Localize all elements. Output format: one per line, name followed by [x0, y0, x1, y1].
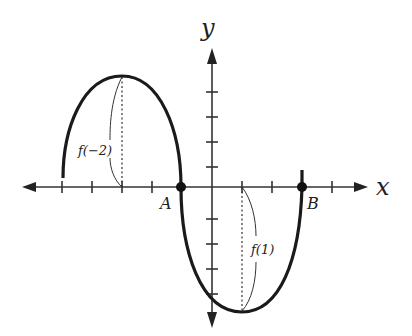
function-curve	[63, 76, 302, 312]
annotation-f-neg2: f(−2)	[77, 77, 122, 187]
x-axis-right-arrow-icon	[354, 182, 368, 192]
function-graph: x y f(−2) f(1) A	[0, 0, 412, 336]
x-axis-label: x	[376, 173, 390, 201]
y-axis: y	[200, 14, 218, 328]
point-a-label: A	[158, 194, 172, 213]
point-b-label: B	[306, 194, 319, 213]
annotation-f-1: f(1)	[242, 187, 274, 311]
y-axis-label: y	[200, 14, 215, 42]
annotation-f-1-label: f(1)	[250, 242, 274, 257]
annotation-f-neg2-label: f(−2)	[77, 143, 112, 158]
y-axis-up-arrow-icon	[207, 48, 217, 64]
y-axis-down-arrow-icon	[207, 312, 217, 328]
x-axis: x	[22, 173, 390, 201]
x-axis-left-arrow-icon	[22, 182, 36, 192]
